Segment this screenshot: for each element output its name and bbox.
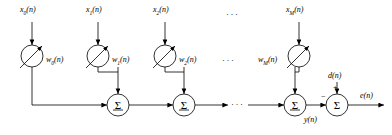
weight-label-wM-suffix: (n) bbox=[268, 55, 277, 64]
input-label-xM: xM(n) bbox=[286, 6, 303, 16]
weight-label-w1-suffix: (n) bbox=[120, 55, 129, 64]
ellipsis-inputs-top: ··· bbox=[226, 10, 240, 19]
weight-label-w2-suffix: (n) bbox=[187, 55, 196, 64]
weight-label-w0-suffix: (n) bbox=[54, 55, 63, 64]
weight-label-w1: w1(n) bbox=[112, 56, 129, 66]
weight-label-w0: w0(n) bbox=[46, 56, 63, 66]
input-label-x2-suffix: (n) bbox=[159, 5, 168, 14]
output-signal-label: y(n) bbox=[304, 116, 317, 124]
summer-error-sigma: Σ bbox=[334, 99, 340, 111]
tap-path-0 bbox=[32, 67, 107, 105]
input-label-xM-suffix: (n) bbox=[294, 5, 303, 14]
input-label-x1: x1(n) bbox=[86, 6, 102, 16]
weight-label-wM: wM(n) bbox=[258, 56, 277, 66]
ellipsis-sum-row: ··· bbox=[231, 100, 245, 109]
desired-signal-suffix: (n) bbox=[332, 71, 341, 80]
minus-sign: − bbox=[321, 93, 326, 101]
adaptive-filter-diagram: Σ Σ Σ Σ x0(n) x1(n) x2(n) xM(n) w0(n) w1… bbox=[0, 0, 392, 135]
plus-sign: + bbox=[333, 84, 338, 92]
summer-3-sigma: Σ bbox=[292, 99, 298, 111]
ellipsis-weights-row: ··· bbox=[222, 56, 236, 65]
input-label-x0-suffix: (n) bbox=[26, 5, 35, 14]
error-signal-suffix: (n) bbox=[364, 91, 373, 100]
input-label-x2: x2(n) bbox=[153, 6, 169, 16]
summer-1-sigma: Σ bbox=[115, 99, 121, 111]
weight-label-w2: w2(n) bbox=[179, 56, 196, 66]
input-label-x0: x0(n) bbox=[20, 6, 36, 16]
summer-2-sigma: Σ bbox=[181, 99, 187, 111]
signal-flow-graph: Σ Σ Σ Σ bbox=[0, 0, 392, 135]
desired-signal-label: d(n) bbox=[328, 72, 341, 80]
output-signal-suffix: (n) bbox=[308, 115, 317, 124]
error-signal-label: e(n) bbox=[360, 92, 373, 100]
input-label-x1-suffix: (n) bbox=[92, 5, 101, 14]
